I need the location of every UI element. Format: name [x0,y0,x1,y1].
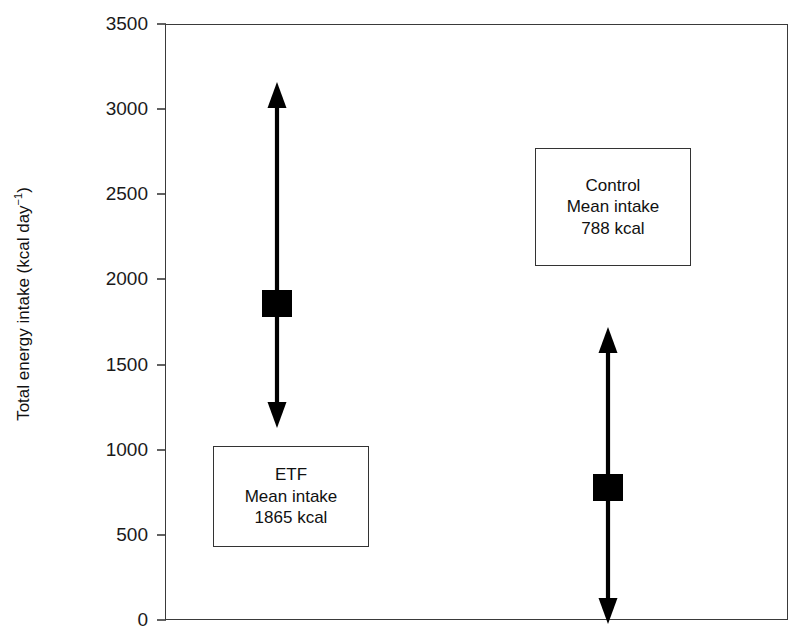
control-annotation-line-3: 788 kcal [581,218,644,239]
y-axis-title-exponent: −1 [12,193,24,206]
y-tick-label-3500: 3500 [36,13,156,35]
y-tick-label-500: 500 [36,524,156,546]
y-tick-label-1500: 1500 [36,354,156,376]
etf-annotation-line-1: ETF [275,464,307,485]
chart-figure: Total energy intake (kcal day−1) 0 500 1… [0,0,800,637]
y-tick-label-2000: 2000 [36,268,156,290]
control-annotation-line-1: Control [586,175,641,196]
y-axis-tick-labels: 0 500 1000 1500 2000 2500 3000 3500 [28,0,156,637]
control-annotation-line-2: Mean intake [567,196,660,217]
y-tick-label-0: 0 [36,609,156,631]
y-tick-label-3000: 3000 [36,98,156,120]
etf-annotation-line-3: 1865 kcal [255,507,328,528]
etf-annotation-line-2: Mean intake [245,486,338,507]
etf-annotation-box: ETF Mean intake 1865 kcal [213,446,369,547]
control-annotation-box: Control Mean intake 788 kcal [535,148,691,266]
y-tick-label-1000: 1000 [36,439,156,461]
y-tick-label-2500: 2500 [36,183,156,205]
